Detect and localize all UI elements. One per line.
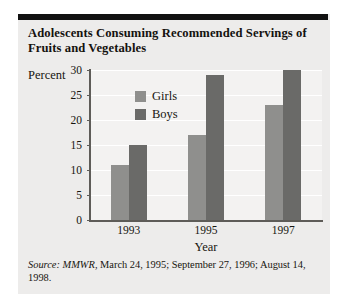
y-tick-mark: [87, 145, 91, 146]
x-axis-line: [89, 220, 323, 222]
y-tick-label: 5: [52, 189, 82, 201]
y-tick-label: 25: [52, 89, 82, 101]
plot-area: [90, 70, 322, 220]
bar-boys-1997: [283, 70, 301, 220]
y-tick-mark: [87, 195, 91, 196]
x-tick-label-1993: 1993: [99, 224, 159, 236]
legend: Girls Boys: [135, 88, 178, 124]
chart-card: Adolescents Consuming Recommended Servin…: [18, 14, 330, 294]
legend-item-girls: Girls: [135, 88, 178, 104]
y-tick-mark: [87, 70, 91, 71]
legend-swatch-girls-icon: [135, 91, 146, 102]
top-rule: [18, 14, 328, 20]
legend-label-boys: Boys: [152, 107, 178, 122]
bar-girls-1997: [265, 105, 283, 220]
x-tick-label-1995: 1995: [176, 224, 236, 236]
legend-swatch-boys-icon: [135, 109, 146, 120]
y-tick-label: 10: [52, 164, 82, 176]
source-note: Source: MMWR, March 24, 1995; September …: [28, 259, 318, 284]
page-title: Adolescents Consuming Recommended Servin…: [28, 26, 323, 56]
y-tick-label: 30: [52, 64, 82, 76]
bar-chart: Percent 051015202530 Girls Boys Year 199…: [28, 64, 324, 246]
source-publication: MMWR: [63, 259, 95, 270]
y-tick-mark: [87, 95, 91, 96]
x-axis-label: Year: [90, 240, 322, 255]
y-tick-mark: [87, 220, 91, 221]
legend-item-boys: Boys: [135, 106, 178, 122]
bar-boys-1993: [129, 145, 147, 220]
legend-label-girls: Girls: [152, 89, 177, 104]
y-axis-ticks: 051015202530: [54, 64, 86, 226]
source-prefix: Source:: [28, 259, 60, 270]
y-tick-mark: [87, 170, 91, 171]
y-tick-label: 15: [52, 139, 82, 151]
screenshot-root: Adolescents Consuming Recommended Servin…: [0, 0, 348, 305]
bar-girls-1993: [111, 165, 129, 220]
x-tick-label-1997: 1997: [253, 224, 313, 236]
y-tick-label: 20: [52, 114, 82, 126]
y-tick-mark: [87, 120, 91, 121]
bar-boys-1995: [206, 75, 224, 220]
bar-girls-1995: [188, 135, 206, 220]
y-tick-label: 0: [52, 214, 82, 226]
